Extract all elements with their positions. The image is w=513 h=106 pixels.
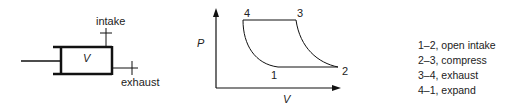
- legend-item: 3–4, exhaust: [418, 68, 496, 83]
- x-axis-label: V: [283, 93, 292, 105]
- point-1-label: 1: [271, 69, 277, 81]
- exhaust-label: exhaust: [121, 76, 160, 88]
- pv-diagram: P V 4 3 1 2: [197, 7, 348, 105]
- piston-cylinder: V intake exhaust: [21, 15, 160, 88]
- process-2-3: [296, 20, 338, 67]
- process-legend: 1–2, open intake 2–3, compress 3–4, exha…: [418, 38, 496, 98]
- legend-item: 1–2, open intake: [418, 38, 496, 53]
- legend-item: 4–1, expand: [418, 83, 496, 98]
- point-3-label: 3: [297, 7, 303, 19]
- point-4-label: 4: [244, 7, 250, 19]
- volume-label: V: [83, 52, 92, 64]
- point-2-label: 2: [342, 65, 348, 77]
- x-axis-arrow-icon: [332, 85, 341, 91]
- y-axis-label: P: [197, 37, 205, 49]
- legend-item: 2–3, compress: [418, 53, 496, 68]
- y-axis-arrow-icon: [213, 8, 219, 17]
- process-4-1: [243, 20, 278, 67]
- intake-label: intake: [96, 15, 125, 27]
